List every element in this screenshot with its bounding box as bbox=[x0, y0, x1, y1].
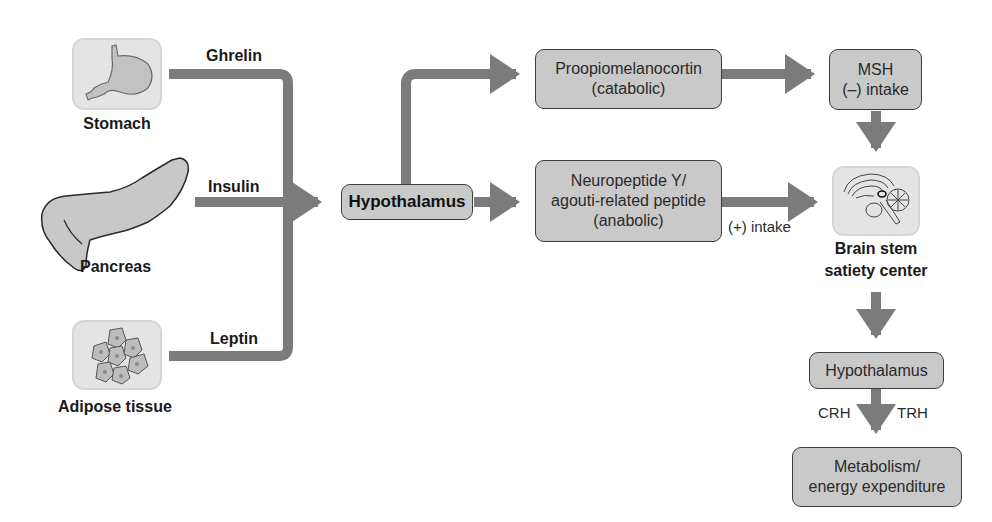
pomc-node: Proopiomelanocortin (catabolic) bbox=[535, 49, 722, 109]
positive-intake-label: (+) intake bbox=[728, 218, 791, 235]
brainstem-label-line1: Brain stem bbox=[826, 240, 926, 258]
trh-label: TRH bbox=[897, 404, 928, 421]
hypothalamus-lower-node: Hypothalamus bbox=[809, 352, 944, 389]
stomach-label: Stomach bbox=[72, 115, 162, 133]
msh-node: MSH (–) intake bbox=[829, 49, 922, 110]
brain-icon bbox=[834, 168, 918, 234]
stomach-image-box bbox=[72, 38, 162, 110]
npy-line3: (anabolic) bbox=[593, 211, 663, 231]
hypothalamus-to-pomc-arrow bbox=[406, 74, 516, 184]
ghrelin-label: Ghrelin bbox=[206, 47, 262, 65]
brain-image-box bbox=[832, 166, 920, 236]
brainstem-label-line2: satiety center bbox=[816, 262, 936, 280]
npy-line2: agouti-related peptide bbox=[551, 191, 706, 211]
stomach-icon bbox=[74, 40, 160, 108]
pomc-line2: (catabolic) bbox=[592, 79, 666, 99]
adipose-image-box bbox=[72, 320, 162, 390]
metabolism-node: Metabolism/ energy expenditure bbox=[792, 447, 962, 507]
insulin-label: Insulin bbox=[208, 178, 260, 196]
npy-node: Neuropeptide Y/ agouti-related peptide (… bbox=[535, 160, 722, 242]
msh-line2: (–) intake bbox=[842, 80, 909, 100]
adipose-label: Adipose tissue bbox=[58, 398, 172, 416]
hypothalamus-node: Hypothalamus bbox=[341, 184, 473, 220]
metabolism-line1: Metabolism/ bbox=[834, 457, 920, 477]
adipose-cells-icon bbox=[74, 322, 160, 388]
msh-line1: MSH bbox=[858, 60, 894, 80]
npy-line1: Neuropeptide Y/ bbox=[571, 171, 686, 191]
metabolism-line2: energy expenditure bbox=[809, 477, 946, 497]
crh-label: CRH bbox=[818, 404, 851, 421]
leptin-label: Leptin bbox=[210, 330, 258, 348]
pomc-line1: Proopiomelanocortin bbox=[555, 59, 702, 79]
pancreas-label: Pancreas bbox=[80, 258, 151, 276]
pancreas-icon bbox=[30, 150, 195, 275]
